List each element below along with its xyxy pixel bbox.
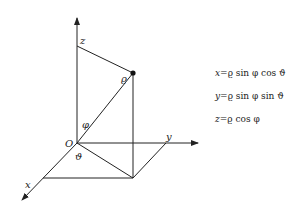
equation-z-lhs: z [215, 114, 220, 124]
theta-label: ϑ [75, 151, 82, 162]
phi-label: φ [82, 119, 89, 130]
equation-y-lhs: y [215, 91, 220, 101]
equation-x-rhs: ϱ sin φ cos ϑ [228, 68, 286, 78]
equation-y: y=ϱ sin φ sin ϑ [215, 91, 284, 101]
origin-label: O [65, 138, 73, 149]
equation-z-rhs: ϱ cos φ [227, 114, 259, 124]
equation-x: x=ϱ sin φ cos ϑ [215, 68, 285, 78]
z-projection-line [77, 46, 133, 73]
equation-y-rhs: ϱ sin φ sin ϑ [228, 91, 284, 101]
spherical-coordinates-diagram: z ϱ φ O ϑ y x [0, 0, 292, 220]
z-axis-label: z [79, 35, 86, 46]
x-axis-label: x [25, 179, 31, 190]
point-marker [130, 70, 135, 75]
equation-z: z=ϱ cos φ [215, 114, 260, 124]
y-axis-label: y [165, 131, 172, 142]
equation-x-lhs: x [215, 68, 220, 78]
y-projection-line [133, 143, 166, 178]
xy-plane-projection [77, 143, 133, 178]
x-axis [22, 143, 77, 200]
rho-label: ϱ [121, 73, 127, 84]
